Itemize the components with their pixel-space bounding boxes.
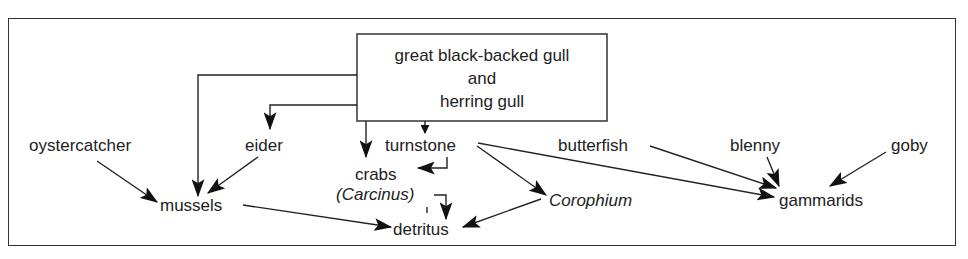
arrow-goby-to-gammarids xyxy=(830,152,886,186)
node-eider: eider xyxy=(245,136,283,155)
arrow-blenny-to-gammarids xyxy=(767,157,779,186)
node-butterfish: butterfish xyxy=(558,136,628,155)
arrow-crabs-to-detritus xyxy=(434,195,446,219)
arrow-gull-to-eider xyxy=(270,105,357,129)
arrow-turnstone-to-crabs xyxy=(418,157,447,168)
node-turnstone: turnstone xyxy=(385,136,456,155)
node-oystercatcher: oystercatcher xyxy=(29,136,131,155)
arrow-corophium-to-detritus xyxy=(463,199,541,227)
node-crabs: crabs xyxy=(355,165,397,184)
arrow-mussels-to-detritus xyxy=(243,205,391,227)
food-web-diagram: great black-backed gull and herring gull… xyxy=(0,0,968,259)
node-gammarids: gammarids xyxy=(779,191,863,210)
node-goby: goby xyxy=(891,136,928,155)
node-mussels: mussels xyxy=(160,196,222,215)
arrow-oystercatcher-to-mussels xyxy=(97,161,157,202)
gull-box: great black-backed gull and herring gull xyxy=(357,34,607,121)
node-blenny: blenny xyxy=(730,136,781,155)
gull-box-line-2: and xyxy=(468,69,496,88)
gull-box-line-3: herring gull xyxy=(440,92,524,111)
node-corophium: Corophium xyxy=(549,191,632,210)
arrow-eider-to-mussels xyxy=(208,157,258,193)
node-carcinus: (Carcinus) xyxy=(336,185,414,204)
gull-box-line-1: great black-backed gull xyxy=(395,46,570,65)
node-detritus: detritus xyxy=(393,220,449,239)
